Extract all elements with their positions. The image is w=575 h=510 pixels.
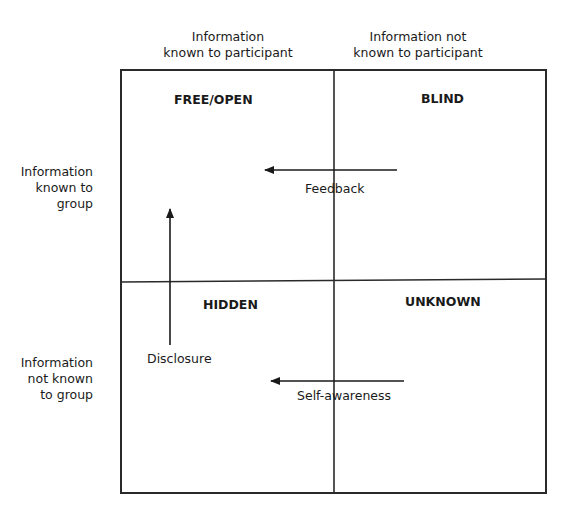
self-awareness-label: Self-awareness [297,388,391,403]
row-header-line: Information [0,164,93,180]
row-header-line: to group [0,387,93,403]
row-header-line: Information [0,355,93,371]
feedback-label: Feedback [305,181,365,196]
column-header-known: Information known to participant [128,29,328,61]
quadrant-hidden: HIDDEN [203,297,258,312]
column-header-line: known to participant [318,45,518,61]
quadrant-free-open: FREE/OPEN [174,92,253,107]
johari-grid [0,0,575,510]
column-header-line: Information not [318,29,518,45]
row-header-not-known: Information not known to group [0,355,93,403]
column-header-line: Information [128,29,328,45]
quadrant-blind: BLIND [421,91,464,106]
row-header-line: not known [0,371,93,387]
column-header-line: known to participant [128,45,328,61]
disclosure-label: Disclosure [147,351,212,366]
column-header-not-known: Information not known to participant [318,29,518,61]
row-header-line: known to [0,180,93,196]
quadrant-unknown: UNKNOWN [405,294,481,309]
row-header-line: group [0,196,93,212]
row-header-known: Information known to group [0,164,93,212]
